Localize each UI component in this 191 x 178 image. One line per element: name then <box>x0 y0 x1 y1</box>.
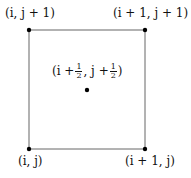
fraction-half-j: 12 <box>110 63 117 80</box>
label-bottom-left: (i, j) <box>18 154 43 168</box>
point-bottom-left <box>27 147 31 151</box>
label-center: (i +12, j +12) <box>52 63 122 80</box>
point-top-left <box>27 28 31 32</box>
point-top-right <box>143 28 147 32</box>
center-mid: , j + <box>83 64 108 78</box>
point-bottom-right <box>143 147 147 151</box>
label-bottom-right: (i + 1, j) <box>125 154 175 168</box>
grid-cell-diagram <box>0 0 191 178</box>
center-close: ) <box>118 64 123 78</box>
label-top-right: (i + 1, j + 1) <box>113 6 188 20</box>
center-open: (i + <box>52 64 74 78</box>
fraction-half-i: 12 <box>75 63 82 80</box>
label-top-left: (i, j + 1) <box>5 6 55 20</box>
point-center <box>85 88 89 92</box>
